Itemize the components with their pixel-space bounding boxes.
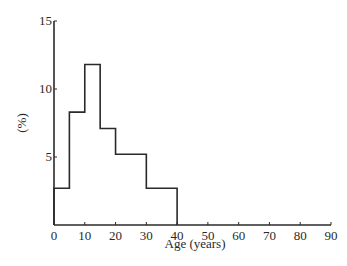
x-tick-label: 60 — [232, 228, 245, 243]
x-tick-label: 90 — [325, 228, 338, 243]
x-tick-label: 80 — [294, 228, 307, 243]
x-tick-label: 30 — [140, 228, 153, 243]
histogram-bars — [54, 65, 177, 225]
x-tick-label: 0 — [51, 228, 58, 243]
x-tick-label: 20 — [109, 228, 122, 243]
x-tick-label: 70 — [263, 228, 276, 243]
y-tick-label: 15 — [39, 13, 52, 28]
histogram-chart: 010203040506070809051015 (%) Age (years) — [0, 0, 347, 266]
axes — [54, 21, 331, 225]
histogram-outline — [54, 65, 177, 225]
x-axis-title: Age (years) — [165, 236, 226, 251]
y-tick-label: 10 — [39, 81, 52, 96]
y-axis-title: (%) — [14, 113, 29, 133]
x-tick-label: 10 — [78, 228, 91, 243]
tick-labels: 010203040506070809051015 — [39, 13, 338, 243]
y-tick-label: 5 — [46, 149, 53, 164]
